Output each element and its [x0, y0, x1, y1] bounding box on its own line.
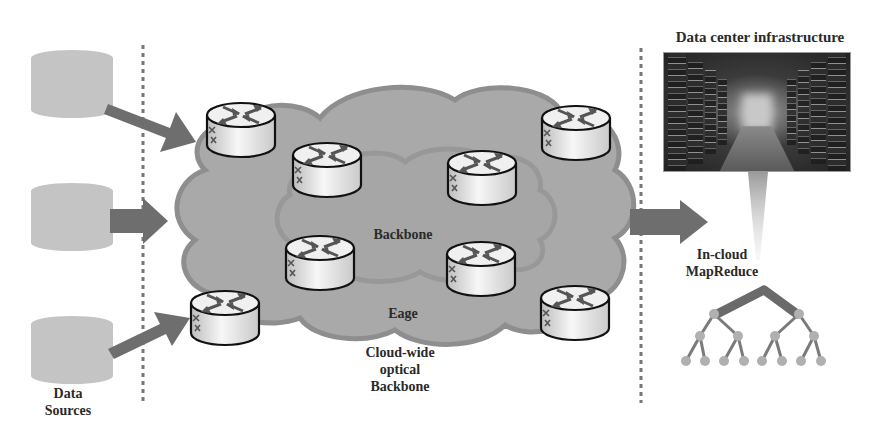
router-edge-top-left: [207, 103, 275, 157]
router-backbone-top-left: [293, 143, 361, 197]
arrow-source-1: [104, 104, 196, 152]
mapreduce-line-2: MapReduce: [672, 264, 772, 281]
cloud-wide-line-2: optical: [345, 362, 455, 379]
arrow-source-3: [108, 312, 190, 359]
data-source-cylinder-2: [31, 183, 113, 251]
edge-label: Eage: [368, 306, 438, 323]
data-sources-line-1: Data: [28, 386, 108, 403]
data-source-cylinder-1: [31, 50, 113, 118]
data-source-cylinder-3: [31, 316, 113, 384]
router-edge-bottom-right: [541, 286, 609, 340]
arrow-source-2: [110, 198, 168, 244]
datacenter-title: Data center infrastructure: [640, 28, 877, 46]
cloud-wide-line-3: Backbone: [345, 379, 455, 396]
cloud-wide-label: Cloud-wide optical Backbone: [345, 345, 455, 395]
router-edge-top-right: [542, 106, 610, 160]
mapreduce-line-1: In-cloud: [672, 247, 772, 264]
datacenter-image: [663, 52, 851, 172]
router-backbone-bottom-right: [447, 242, 515, 296]
router-edge-bottom-left: [191, 291, 259, 345]
data-sources-label: Data Sources: [28, 386, 108, 420]
router-backbone-top-right: [448, 151, 516, 205]
data-sources-line-2: Sources: [28, 403, 108, 420]
backbone-label: Backbone: [358, 227, 448, 244]
mapreduce-label: In-cloud MapReduce: [672, 247, 772, 281]
router-backbone-bottom-left: [286, 236, 354, 290]
mapreduce-tree: [681, 290, 826, 366]
cloud-wide-line-1: Cloud-wide: [345, 345, 455, 362]
arrow-to-datacenter: [630, 200, 708, 244]
